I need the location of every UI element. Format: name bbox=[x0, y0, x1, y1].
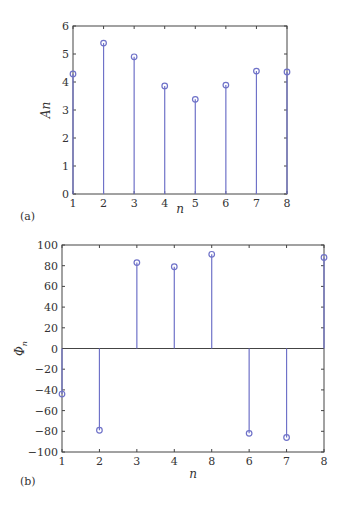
y-tick-label: 5 bbox=[62, 48, 69, 61]
y-axis-label: An bbox=[39, 102, 53, 119]
y-tick-label: 0 bbox=[62, 188, 69, 201]
y-tick-label: −60 bbox=[35, 405, 58, 418]
x-tick-label: 4 bbox=[171, 455, 178, 468]
y-tick-label: 60 bbox=[44, 280, 58, 293]
y-tick-label: 6 bbox=[62, 20, 69, 33]
x-tick-label: 6 bbox=[246, 455, 253, 468]
y-tick-label: 20 bbox=[44, 322, 58, 335]
y-tick-label: 40 bbox=[44, 301, 58, 314]
y-tick-label: 2 bbox=[62, 132, 69, 145]
stem-plot-a: 012345612345678nAn(a) bbox=[20, 20, 291, 223]
y-tick-label: −20 bbox=[35, 363, 58, 376]
y-tick-label: 1 bbox=[62, 160, 69, 173]
x-tick-label: 1 bbox=[70, 197, 77, 210]
y-tick-label: −100 bbox=[28, 446, 58, 459]
y-tick-label: 80 bbox=[44, 260, 58, 273]
x-tick-label: 2 bbox=[100, 197, 107, 210]
x-tick-label: 6 bbox=[222, 197, 229, 210]
y-tick-label: −40 bbox=[35, 384, 58, 397]
x-tick-label: 8 bbox=[284, 197, 291, 210]
x-tick-label: 3 bbox=[133, 455, 140, 468]
stem-plot-b: −100−80−60−40−2002040608010012348678nΦn(… bbox=[13, 239, 328, 488]
x-tick-label: 8 bbox=[321, 455, 328, 468]
x-tick-label: 8 bbox=[208, 455, 215, 468]
axes-box bbox=[73, 26, 287, 194]
x-tick-label: 7 bbox=[253, 197, 260, 210]
x-tick-label: 1 bbox=[59, 455, 66, 468]
x-tick-label: 3 bbox=[131, 197, 138, 210]
y-axis-label: Φn bbox=[13, 341, 29, 356]
panel-label: (a) bbox=[20, 210, 35, 223]
y-tick-label: 0 bbox=[51, 343, 58, 356]
x-axis-label: n bbox=[189, 467, 197, 481]
x-tick-label: 2 bbox=[96, 455, 103, 468]
y-tick-label: 4 bbox=[62, 76, 69, 89]
x-axis-label: n bbox=[176, 202, 184, 216]
y-tick-label: −80 bbox=[35, 425, 58, 438]
panel-label: (b) bbox=[20, 475, 36, 488]
y-tick-label: 100 bbox=[37, 239, 58, 252]
x-tick-label: 7 bbox=[283, 455, 290, 468]
x-tick-label: 5 bbox=[192, 197, 199, 210]
figure: 012345612345678nAn(a)−100−80−60−40−20020… bbox=[0, 0, 345, 506]
x-tick-label: 4 bbox=[161, 197, 168, 210]
y-tick-label: 3 bbox=[62, 104, 69, 117]
